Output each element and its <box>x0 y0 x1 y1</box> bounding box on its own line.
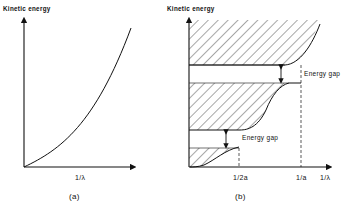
energy-gap-label-upper: Energy gap <box>304 70 340 77</box>
upper-band <box>189 20 318 65</box>
x-tick-half-a: 1/2a <box>233 174 248 181</box>
panel-a-y-axis-label: Kinetic energy <box>3 5 51 12</box>
panel-b <box>189 20 329 167</box>
lower-band <box>189 148 239 167</box>
x-tick-a: 1/a <box>296 174 307 181</box>
dispersion-curve <box>24 28 131 167</box>
diagram-canvas <box>0 0 344 210</box>
panel-b-y-axis-label: Kinetic energy <box>167 5 215 12</box>
panel-a <box>24 20 133 167</box>
panel-b-caption: (b) <box>235 192 246 201</box>
middle-band <box>189 83 289 130</box>
panel-a-caption: (a) <box>69 192 80 201</box>
panel-b-x-axis-label: 1/λ <box>320 174 330 181</box>
energy-gap-label-lower: Energy gap <box>242 134 278 141</box>
panel-a-x-axis-label: 1/λ <box>75 174 85 181</box>
